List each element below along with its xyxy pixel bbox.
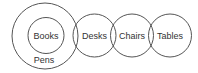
- pens-label: Pens: [34, 55, 55, 65]
- chairs-label: Chairs: [119, 31, 146, 41]
- desks-label: Desks: [82, 31, 108, 41]
- books-label: Books: [33, 31, 59, 41]
- tables-label: Tables: [157, 31, 184, 41]
- euler-diagram: Books Pens Desks Chairs Tables: [0, 0, 198, 73]
